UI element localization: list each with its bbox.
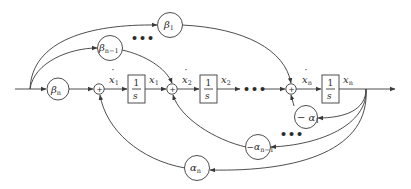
main-path-ellipsis: ••• <box>243 83 267 96</box>
integrator-2: 1 s <box>200 75 217 103</box>
svg-text:x2: x2 <box>182 74 192 87</box>
svg-text:xn: xn <box>343 74 353 87</box>
integrator-n: 1 s <box>322 75 339 103</box>
summing-junction-2: + <box>167 84 177 94</box>
label-x2: x2 <box>221 74 231 87</box>
feedback-gains-ellipsis: ••• <box>280 128 304 141</box>
state-space-block-diagram: βn βn−1 β1 ••• + + + 1 s 1 s 1 <box>0 0 411 189</box>
svg-text:+: + <box>169 85 176 94</box>
svg-text:x1: x1 <box>109 74 119 87</box>
svg-text:1: 1 <box>206 78 212 88</box>
summing-junction-1: + <box>94 84 104 94</box>
label-x1: x1 <box>149 74 159 87</box>
svg-text:s: s <box>327 91 332 101</box>
svg-text:+: + <box>288 85 295 94</box>
gain-beta-n: βn <box>47 78 69 100</box>
gain-neg-alpha-1: − α1 <box>295 106 320 129</box>
svg-text:s: s <box>205 91 210 101</box>
svg-text:1: 1 <box>328 78 334 88</box>
forward-branches <box>30 25 291 89</box>
svg-text:+: + <box>96 85 103 94</box>
svg-text:s: s <box>133 91 138 101</box>
label-xdotn: · xn <box>302 65 312 87</box>
forward-gains-ellipsis: ••• <box>131 32 155 45</box>
svg-text:xn: xn <box>302 74 312 87</box>
gain-neg-alpha-n-minus-1: −αn−1 <box>246 135 274 160</box>
svg-text:x1: x1 <box>149 74 159 87</box>
label-xdot2: · x2 <box>182 65 192 87</box>
label-xn: xn <box>343 74 353 87</box>
label-xdot1: · x1 <box>109 65 119 87</box>
svg-text:1: 1 <box>134 78 140 88</box>
summing-junction-n: + <box>286 84 296 94</box>
integrator-1: 1 s <box>128 75 145 103</box>
gain-beta-n-minus-1: βn−1 <box>98 36 123 61</box>
gain-beta-1: β1 <box>158 13 183 38</box>
svg-text:x2: x2 <box>221 74 231 87</box>
gain-alpha-n: αn <box>185 156 210 181</box>
